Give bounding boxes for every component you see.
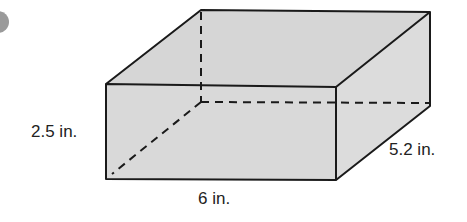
width-label: 5.2 in. xyxy=(389,140,435,160)
height-label: 2.5 in. xyxy=(31,122,77,142)
prism-diagram xyxy=(0,0,467,222)
length-label: 6 in. xyxy=(198,189,230,209)
front-face xyxy=(106,84,336,180)
question-number-badge xyxy=(0,11,9,33)
